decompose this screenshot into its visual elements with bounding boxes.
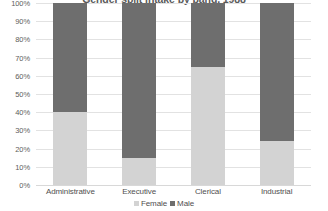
bar-group[interactable] bbox=[122, 3, 156, 185]
y-axis-tick-label: 30% bbox=[15, 126, 30, 135]
bar-segment-female[interactable] bbox=[260, 141, 294, 185]
bar-segment-female[interactable] bbox=[191, 67, 225, 185]
bar-stack bbox=[53, 3, 87, 185]
legend-item-female[interactable]: Female bbox=[133, 199, 168, 208]
y-axis-tick-label: 10% bbox=[15, 162, 30, 171]
bar-stack bbox=[191, 3, 225, 185]
legend-label: Female bbox=[141, 199, 167, 208]
y-axis-tick-label: 0% bbox=[19, 181, 30, 190]
gridline-0 bbox=[36, 185, 311, 186]
legend-swatch-icon bbox=[170, 201, 175, 206]
bar-group[interactable] bbox=[260, 3, 294, 185]
y-axis-tick-label: 70% bbox=[15, 53, 30, 62]
x-axis-category-label: Industrial bbox=[242, 187, 311, 196]
y-axis-tick-label: 60% bbox=[15, 71, 30, 80]
y-axis-tick-label: 20% bbox=[15, 144, 30, 153]
y-axis-tick-label: 40% bbox=[15, 108, 30, 117]
bar-stack bbox=[260, 3, 294, 185]
x-axis-category-label: Executive bbox=[105, 187, 174, 196]
y-axis-tick-label: 80% bbox=[15, 35, 30, 44]
bar-segment-male[interactable] bbox=[191, 3, 225, 67]
bar-stack bbox=[122, 3, 156, 185]
chart-container: Gender split intake by band, 1988 0%10%2… bbox=[0, 0, 328, 211]
y-axis-labels: 0%10%20%30%40%50%60%70%80%90%100% bbox=[0, 3, 33, 185]
x-axis-category-label: Clerical bbox=[174, 187, 243, 196]
y-axis-tick-label: 50% bbox=[15, 90, 30, 99]
x-axis-category-label: Administrative bbox=[36, 187, 105, 196]
bar-segment-male[interactable] bbox=[122, 3, 156, 158]
legend-item-male[interactable]: Male bbox=[169, 199, 195, 208]
bar-segment-female[interactable] bbox=[53, 112, 87, 185]
y-axis-tick-label: 100% bbox=[11, 0, 30, 8]
bar-group[interactable] bbox=[191, 3, 225, 185]
bar-segment-female[interactable] bbox=[122, 158, 156, 185]
bar-segment-male[interactable] bbox=[53, 3, 87, 112]
bar-segment-male[interactable] bbox=[260, 3, 294, 141]
bar-group[interactable] bbox=[53, 3, 87, 185]
legend-label: Male bbox=[177, 199, 194, 208]
y-axis-tick-label: 90% bbox=[15, 17, 30, 26]
bar-series-group bbox=[36, 3, 311, 185]
legend-swatch-icon bbox=[134, 201, 139, 206]
chart-legend: FemaleMale bbox=[0, 199, 328, 208]
